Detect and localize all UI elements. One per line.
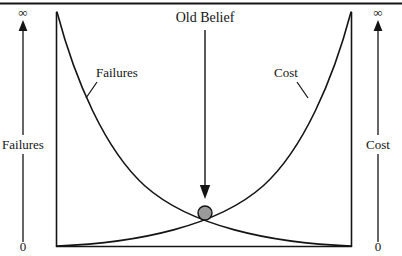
old-belief-arrowhead-icon (200, 185, 210, 199)
crossover-point-marker (198, 206, 212, 220)
right-axis-name-label: Cost (366, 137, 390, 152)
right-axis-group: ∞ Cost 0 (358, 5, 398, 254)
old-belief-label: Old Belief (176, 10, 235, 25)
diagram-canvas: ∞ Failures 0 ∞ Cost 0 Failures (0, 0, 402, 256)
cost-curve-label: Cost (274, 65, 298, 80)
failures-curve-label: Failures (96, 65, 138, 80)
failures-leader-line (86, 82, 97, 98)
right-axis-arrowhead-icon (374, 20, 383, 31)
left-axis-group: ∞ Failures 0 (1, 5, 45, 254)
right-axis-top-label: ∞ (373, 5, 382, 20)
failures-label-group: Failures (86, 65, 138, 98)
right-axis-bottom-label: 0 (375, 239, 382, 254)
cost-leader-line (297, 82, 308, 98)
cost-label-group: Cost (274, 65, 308, 98)
left-axis-name-label: Failures (2, 137, 44, 152)
left-axis-top-label: ∞ (18, 5, 27, 20)
diagram-page: ∞ Failures 0 ∞ Cost 0 Failures (0, 0, 402, 256)
left-axis-arrowhead-icon (19, 20, 28, 31)
old-belief-callout-group: Old Belief (176, 10, 235, 199)
left-axis-bottom-label: 0 (20, 239, 27, 254)
